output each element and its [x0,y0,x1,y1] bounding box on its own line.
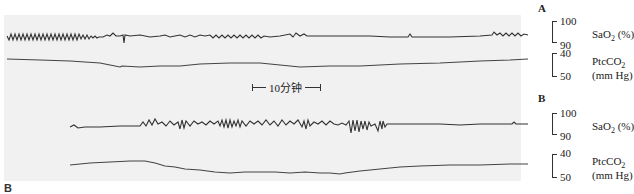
figure-letter: B [4,182,12,194]
panel-b-sao2-axis-bracket [552,113,553,135]
panel-a-letter: A [538,2,546,14]
panel-b-ptco2-trace [70,161,528,174]
panel-b-ptco2-top-tick: 40 [560,148,571,159]
panel-a-ptco2-bottom-tick: 50 [560,71,571,82]
scale-bar-left [252,87,266,88]
panel-a-sao2-top-tick: 100 [560,16,577,27]
panel-b-ptco2-bottom-tick: 50 [560,172,571,183]
panel-a-ptco2-trace [7,59,528,67]
time-scale-bar: 10分钟 [252,79,321,95]
scale-bar-right [305,87,321,88]
panel-b-sao2-trace [70,119,528,133]
panel-b-sao2-label: SaO2 (%) [592,120,634,137]
panel-a-ptco2-unit: (mm Hg) [592,69,633,81]
panel-b-sao2-bottom-tick: 90 [560,131,571,142]
panel-a-sao2-label: SaO2 (%) [592,28,634,45]
scale-bar-label: 10分钟 [269,79,302,95]
panel-a-ptco2-top-tick: 40 [560,48,571,59]
panel-b-sao2-top-tick: 100 [560,108,577,119]
panel-a-sao2-trace [7,32,528,43]
panel-a-ptco2-axis-bracket [552,53,553,77]
panel-b-ptco2-axis-bracket [552,154,553,178]
panel-b-letter: B [538,92,545,104]
panel-a-sao2-axis-bracket [552,21,553,43]
panel-b-ptco2-unit: (mm Hg) [592,169,633,181]
